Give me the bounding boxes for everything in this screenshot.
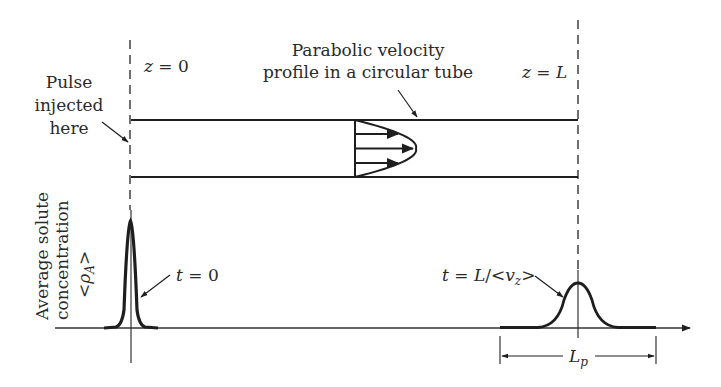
t0-arrow-icon — [141, 275, 170, 297]
yaxis-label-line3: <ρA> — [74, 251, 97, 298]
z0-label: z = 0 — [143, 56, 189, 76]
yaxis-label-line1: Average solute — [32, 192, 52, 321]
yaxis-label-line2: concentration — [52, 200, 72, 320]
pulse-label-line1: Pulse — [46, 72, 93, 92]
pulse-injected-arrow-icon — [102, 122, 128, 142]
profile-label-line2: profile in a circular tube — [263, 62, 473, 82]
tL-arrow-icon — [535, 276, 563, 297]
t0-label: t = 0 — [176, 265, 219, 285]
profile-label-line1: Parabolic velocity — [292, 40, 445, 60]
Lp-label: Lp — [568, 346, 588, 369]
profile-label-arrow-icon — [398, 90, 417, 117]
tL-label: t = L/<vz> — [442, 265, 535, 288]
yaxis-label: Average solute concentration <ρA> — [32, 192, 97, 321]
zL-label: z = L — [521, 62, 567, 82]
pulse-label-line3: here — [49, 118, 88, 138]
parabolic-profile — [355, 120, 416, 177]
taylor-dispersion-diagram: z = 0 z = L Pulse injected here Paraboli… — [0, 0, 721, 387]
pulse-label-line2: injected — [34, 95, 103, 115]
